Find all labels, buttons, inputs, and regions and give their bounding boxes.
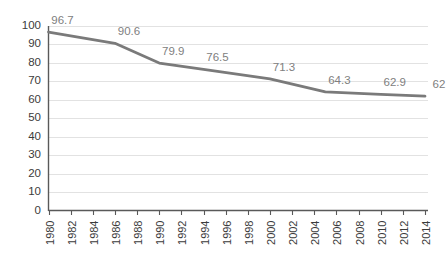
chart-canvas: 0102030405060708090100 19801982198419861… — [0, 0, 448, 260]
y-axis-tick-label: 90 — [28, 37, 41, 49]
y-axis-tick-label: 30 — [28, 148, 41, 160]
x-axis-tick-label: 1990 — [154, 221, 166, 245]
x-axis-tick-label: 2010 — [376, 221, 388, 245]
x-axis-tick-label: 1996 — [221, 221, 233, 245]
data-point-label: 62 — [433, 78, 446, 90]
x-axis-tick-label: 1982 — [66, 221, 78, 245]
y-axis-tick-label: 50 — [28, 111, 41, 123]
data-point-label: 76.5 — [206, 51, 228, 63]
data-point-label: 71.3 — [273, 61, 295, 73]
x-axis-tick-label: 1984 — [88, 221, 100, 245]
y-axis-tick-label: 0 — [35, 204, 41, 216]
data-point-label: 79.9 — [162, 45, 184, 57]
x-axis-tick-label: 2014 — [420, 221, 432, 245]
x-axis-tick-label: 2004 — [309, 221, 321, 245]
y-axis-tick-label: 40 — [28, 130, 41, 142]
y-axis-tick-label: 20 — [28, 167, 41, 179]
x-axis-tick-label: 2000 — [265, 221, 277, 245]
x-axis-tick-label: 1994 — [199, 221, 211, 245]
x-axis-tick-label: 1980 — [44, 221, 56, 245]
y-axis-tick-label: 100 — [22, 19, 41, 31]
data-point-label: 96.7 — [51, 14, 73, 26]
x-axis-tick-label: 1988 — [132, 221, 144, 245]
line-chart: 0102030405060708090100 19801982198419861… — [0, 0, 448, 260]
x-axis-tick-label: 2002 — [287, 221, 299, 245]
y-axis-tick-label: 70 — [28, 74, 41, 86]
x-axis-tick-label: 2006 — [331, 221, 343, 245]
data-point-label: 90.6 — [118, 25, 140, 37]
x-axis-tick-label: 1992 — [176, 221, 188, 245]
y-axis-tick-label: 10 — [28, 185, 41, 197]
data-point-label: 64.3 — [328, 74, 350, 86]
y-axis-tick-label: 60 — [28, 93, 41, 105]
x-axis-tick-label: 1986 — [110, 221, 122, 245]
x-axis-tick-label: 1998 — [243, 221, 255, 245]
data-point-label: 62.9 — [384, 76, 406, 88]
x-axis-tick-label: 2008 — [354, 221, 366, 245]
y-axis-tick-label: 80 — [28, 56, 41, 68]
x-axis-tick-label: 2012 — [398, 221, 410, 245]
